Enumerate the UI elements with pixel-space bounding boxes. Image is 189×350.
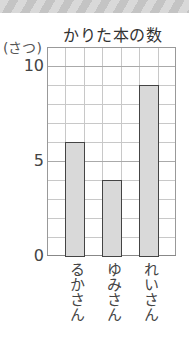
y-tick-label-0: 0: [34, 248, 44, 264]
plot-area: [47, 47, 176, 256]
decorative-header-stripe: [0, 0, 189, 13]
y-tick-label-5: 5: [34, 153, 44, 169]
y-tick-label-10: 10: [24, 58, 44, 74]
bar-2: [102, 180, 122, 257]
category-label-3: れいさん: [140, 262, 158, 322]
bar-3: [139, 85, 159, 257]
y-axis-unit-label: (さつ): [3, 39, 42, 57]
bar-1: [65, 142, 85, 257]
category-label-1: るかさん: [66, 262, 84, 322]
category-label-2: ゆみさん: [103, 262, 121, 322]
